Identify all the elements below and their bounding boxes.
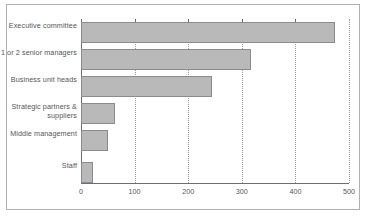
category-label-strategic-partners: Strategic partners & suppliers <box>0 103 77 120</box>
plot-area <box>81 19 349 183</box>
gridline-400 <box>295 19 296 183</box>
category-axis-labels: Executive committee 1 or 2 senior manage… <box>7 5 77 183</box>
category-label-staff: Staff <box>0 162 77 171</box>
gridline-200 <box>188 19 189 183</box>
bar-business-unit-heads[interactable] <box>81 76 212 97</box>
bar-senior-managers[interactable] <box>81 49 251 70</box>
gridline-100 <box>135 19 136 183</box>
category-label-business-unit-heads: Business unit heads <box>0 76 77 85</box>
chart-frame: Executive committee 1 or 2 senior manage… <box>6 4 360 210</box>
bar-middle-management[interactable] <box>81 130 108 151</box>
x-tick-label-0: 0 <box>66 187 96 196</box>
category-label-executive-committee: Executive committee <box>0 22 77 31</box>
x-tick-label-100: 100 <box>120 187 150 196</box>
gridline-300 <box>242 19 243 183</box>
bar-strategic-partners[interactable] <box>81 103 115 124</box>
x-tick-label-300: 300 <box>227 187 257 196</box>
x-axis-line <box>81 183 349 184</box>
gridline-0 <box>81 19 82 183</box>
category-label-senior-managers: 1 or 2 senior managers <box>0 49 77 58</box>
x-tick-label-400: 400 <box>280 187 310 196</box>
x-tick-label-200: 200 <box>173 187 203 196</box>
category-label-middle-management: Middle management <box>0 130 77 139</box>
bar-executive-committee[interactable] <box>81 22 335 43</box>
x-tick-label-500: 500 <box>334 187 364 196</box>
bar-staff[interactable] <box>81 162 93 183</box>
gridline-500 <box>349 19 350 183</box>
